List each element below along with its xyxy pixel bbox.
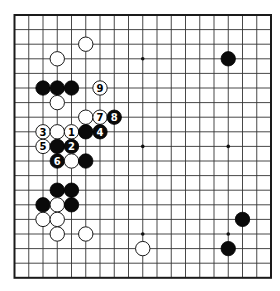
white-stone-circle (79, 110, 93, 124)
white-stone (79, 110, 93, 124)
white-stone (50, 227, 64, 241)
black-stone (235, 212, 249, 226)
white-stone-circle (64, 154, 78, 168)
white-stone-circle (50, 227, 64, 241)
black-stone (79, 125, 93, 139)
black-stone (79, 154, 93, 168)
white-stone (79, 227, 93, 241)
black-stone-circle (221, 241, 235, 255)
black-stone-circle (221, 52, 235, 66)
move-number-label: 7 (97, 112, 104, 123)
move-number-label: 8 (111, 112, 118, 123)
star-point (226, 232, 230, 236)
black-stone-circle (64, 81, 78, 95)
star-point (141, 57, 145, 61)
white-stone-circle (36, 212, 50, 226)
move-number-label: 4 (97, 127, 104, 138)
white-stone (36, 212, 50, 226)
black-stone-circle (36, 198, 50, 212)
black-stone-circle (50, 183, 64, 197)
black-stone-circle (64, 198, 78, 212)
move-number-label: 2 (68, 141, 75, 152)
move-number-label: 9 (97, 83, 104, 94)
black-stone (221, 52, 235, 66)
white-stone-circle (50, 95, 64, 109)
black-stone (50, 139, 64, 153)
white-stone (50, 125, 64, 139)
white-stone-circle (50, 212, 64, 226)
black-stone (36, 81, 50, 95)
black-stone: 2 (64, 139, 78, 153)
move-number-label: 3 (40, 127, 47, 138)
move-number-label: 5 (40, 141, 47, 152)
go-board: 978314526 (0, 0, 280, 291)
black-stone: 8 (107, 110, 121, 124)
white-stone: 3 (36, 125, 50, 139)
white-stone-circle (79, 37, 93, 51)
black-stone (64, 183, 78, 197)
black-stone-circle (79, 125, 93, 139)
black-stone-circle (50, 139, 64, 153)
black-stone (64, 81, 78, 95)
white-stone-circle (79, 227, 93, 241)
white-stone: 5 (36, 139, 50, 153)
white-stone-circle (50, 52, 64, 66)
white-stone (50, 95, 64, 109)
white-stone (79, 37, 93, 51)
white-stone (136, 241, 150, 255)
white-stone: 7 (93, 110, 107, 124)
star-point (141, 145, 145, 149)
white-stone-circle (50, 125, 64, 139)
white-stone (50, 198, 64, 212)
white-stone: 9 (93, 81, 107, 95)
white-stone-circle (136, 241, 150, 255)
black-stone-circle (235, 212, 249, 226)
black-stone (64, 198, 78, 212)
black-stone (50, 183, 64, 197)
star-point (226, 145, 230, 149)
star-point (141, 232, 145, 236)
black-stone (221, 241, 235, 255)
white-stone-circle (50, 198, 64, 212)
black-stone-circle (36, 81, 50, 95)
black-stone: 6 (50, 154, 64, 168)
black-stone-circle (50, 81, 64, 95)
move-number-label: 6 (54, 156, 61, 167)
black-stone-circle (79, 154, 93, 168)
white-stone (64, 154, 78, 168)
black-stone (50, 81, 64, 95)
black-stone: 4 (93, 125, 107, 139)
white-stone: 1 (64, 125, 78, 139)
white-stone (50, 52, 64, 66)
black-stone-circle (64, 183, 78, 197)
white-stone (50, 212, 64, 226)
black-stone (36, 198, 50, 212)
move-number-label: 1 (68, 127, 75, 138)
